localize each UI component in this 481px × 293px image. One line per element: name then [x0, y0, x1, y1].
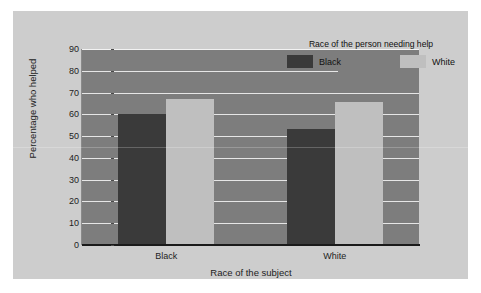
y-tick-label-10: 10: [53, 219, 79, 228]
y-tick-mark-60: [111, 114, 114, 115]
legend-swatch-black: [287, 55, 313, 68]
y-tick-mark-50: [111, 136, 114, 137]
bar-white-white[interactable]: [335, 102, 383, 245]
x-axis-title: Race of the subject: [82, 267, 420, 278]
y-axis-title: Percentage who helped: [27, 34, 38, 184]
legend-swatch-white: [400, 55, 426, 68]
y-tick-label-20: 20: [53, 197, 79, 206]
y-axis-line: [81, 49, 82, 245]
bar-white-black[interactable]: [287, 129, 335, 246]
legend-entry-white[interactable]: White: [400, 55, 455, 68]
y-tick-label-70: 70: [53, 88, 79, 97]
legend: Race of the person needing help Black Wh…: [285, 39, 457, 81]
x-category-label-black: Black: [126, 251, 206, 261]
y-tick-mark-90: [111, 49, 114, 50]
bar-black-white[interactable]: [166, 99, 214, 245]
y-tick-label-90: 90: [53, 45, 79, 54]
y-tick-mark-80: [111, 71, 114, 72]
y-tick-mark-10: [111, 223, 114, 224]
legend-items: Black White: [285, 55, 457, 68]
figure-card: 9080706050403020100 Percentage who helpe…: [13, 11, 468, 279]
legend-title: Race of the person needing help: [285, 39, 457, 49]
y-tick-label-50: 50: [53, 132, 79, 141]
y-tick-label-40: 40: [53, 153, 79, 162]
legend-label-white: White: [432, 57, 455, 67]
y-tick-mark-70: [111, 93, 114, 94]
y-tick-label-80: 80: [53, 66, 79, 75]
x-axis-line: [82, 244, 420, 246]
y-axis-ticks: 9080706050403020100: [45, 49, 79, 245]
y-tick-label-0: 0: [53, 241, 79, 250]
y-tick-label-30: 30: [53, 175, 79, 184]
y-tick-mark-30: [111, 180, 114, 181]
legend-entry-black[interactable]: Black: [287, 55, 341, 68]
legend-label-black: Black: [319, 57, 341, 67]
y-tick-mark-0: [111, 245, 114, 246]
y-tick-mark-20: [111, 201, 114, 202]
gridline-70: [82, 93, 419, 94]
x-category-label-white: White: [295, 251, 375, 261]
y-tick-mark-40: [111, 158, 114, 159]
bar-black-black[interactable]: [118, 114, 166, 245]
y-tick-label-60: 60: [53, 110, 79, 119]
